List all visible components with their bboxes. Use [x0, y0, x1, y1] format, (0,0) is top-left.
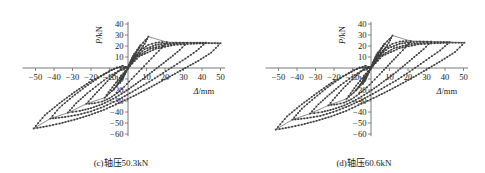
- hysteresis-chart-d: −50−40−30−20−1001020304050403020100−10−2…: [243, 0, 485, 150]
- data-point-marker: [153, 84, 155, 86]
- data-point-marker: [392, 43, 394, 45]
- data-point-marker: [113, 84, 115, 86]
- data-point-marker: [351, 79, 353, 81]
- skeleton-curve: [276, 36, 465, 130]
- data-point-marker: [168, 69, 170, 71]
- data-point-marker: [354, 77, 356, 79]
- data-point-marker: [173, 65, 175, 67]
- data-point-marker: [156, 67, 158, 69]
- data-point-marker: [286, 116, 288, 118]
- data-point-marker: [386, 85, 388, 87]
- data-point-marker: [40, 127, 42, 129]
- data-point-marker: [136, 56, 138, 58]
- data-point-marker: [340, 103, 342, 105]
- data-point-marker: [341, 106, 343, 108]
- data-point-marker: [336, 110, 338, 112]
- data-point-marker: [366, 86, 368, 88]
- data-point-marker: [356, 95, 358, 97]
- curves-group: [33, 36, 222, 130]
- data-point-marker: [411, 43, 413, 45]
- data-point-marker: [389, 89, 391, 91]
- data-point-marker: [59, 123, 61, 125]
- data-point-marker: [94, 78, 96, 80]
- data-point-marker: [51, 108, 53, 110]
- x-tick-label: 40: [198, 72, 207, 82]
- data-point-marker: [156, 52, 158, 54]
- hysteresis-figure: −50−40−30−20−1001020304050403020100−10−2…: [0, 0, 485, 173]
- data-point-marker: [389, 63, 391, 65]
- panel-caption-d: (d)轴压60.6kN: [243, 157, 485, 169]
- data-point-marker: [384, 54, 386, 56]
- data-point-marker: [108, 91, 110, 93]
- data-point-marker: [385, 49, 387, 51]
- data-point-marker: [111, 76, 113, 78]
- data-point-marker: [402, 45, 404, 47]
- data-point-marker: [304, 106, 306, 108]
- data-point-marker: [351, 107, 353, 109]
- data-point-marker: [126, 83, 128, 85]
- data-point-marker: [358, 93, 360, 95]
- data-point-marker: [97, 111, 99, 113]
- data-point-marker: [137, 81, 139, 83]
- data-point-marker: [148, 60, 150, 62]
- data-point-marker: [104, 100, 106, 102]
- data-point-marker: [397, 85, 399, 87]
- data-point-marker: [114, 72, 116, 74]
- x-tick-label: 50: [459, 72, 468, 82]
- data-point-marker: [323, 87, 325, 89]
- data-point-marker: [97, 77, 99, 79]
- data-point-marker: [402, 40, 404, 42]
- data-point-marker: [167, 45, 169, 47]
- data-point-marker: [120, 69, 122, 71]
- data-point-marker: [339, 112, 341, 114]
- data-point-marker: [352, 90, 354, 92]
- data-point-marker: [121, 101, 123, 103]
- data-point-marker: [106, 77, 108, 79]
- data-point-marker: [133, 95, 135, 97]
- data-point-marker: [119, 98, 121, 100]
- data-point-marker: [428, 67, 430, 69]
- data-point-marker: [383, 80, 385, 82]
- data-point-marker: [367, 96, 369, 98]
- data-point-marker: [126, 90, 128, 92]
- data-point-marker: [361, 96, 363, 98]
- data-point-marker: [410, 78, 412, 80]
- data-point-marker: [403, 74, 405, 76]
- data-point-marker: [72, 96, 74, 98]
- data-point-marker: [326, 85, 328, 87]
- data-point-marker: [339, 109, 341, 111]
- data-point-marker: [385, 79, 387, 81]
- data-point-marker: [335, 107, 337, 109]
- data-point-marker: [420, 72, 422, 74]
- data-point-marker: [187, 43, 189, 45]
- data-point-marker: [159, 81, 161, 83]
- data-point-marker: [367, 100, 369, 102]
- data-point-marker: [393, 50, 395, 52]
- skeleton-curve: [34, 37, 221, 129]
- data-point-marker: [66, 97, 68, 99]
- data-point-marker: [165, 60, 167, 62]
- data-point-marker: [156, 83, 158, 85]
- data-point-marker: [379, 57, 381, 59]
- data-point-marker: [431, 66, 433, 68]
- data-point-marker: [389, 83, 391, 85]
- data-point-marker: [86, 92, 88, 94]
- data-point-marker: [81, 86, 83, 88]
- data-point-marker: [457, 49, 459, 51]
- data-point-marker: [115, 104, 117, 106]
- data-point-marker: [364, 97, 366, 99]
- data-point-marker: [399, 43, 401, 45]
- data-point-marker: [80, 98, 82, 100]
- data-point-marker: [411, 45, 413, 47]
- data-point-marker: [351, 104, 353, 106]
- data-point-marker: [316, 92, 318, 94]
- data-point-marker: [379, 74, 381, 76]
- panel-caption-c: (c)轴压50.3kN: [0, 157, 242, 169]
- data-point-marker: [210, 52, 212, 54]
- data-point-marker: [359, 80, 361, 82]
- data-point-marker: [289, 114, 291, 116]
- data-point-marker: [135, 89, 137, 91]
- data-point-marker: [88, 81, 90, 83]
- data-point-marker: [363, 89, 365, 91]
- data-point-marker: [100, 82, 102, 84]
